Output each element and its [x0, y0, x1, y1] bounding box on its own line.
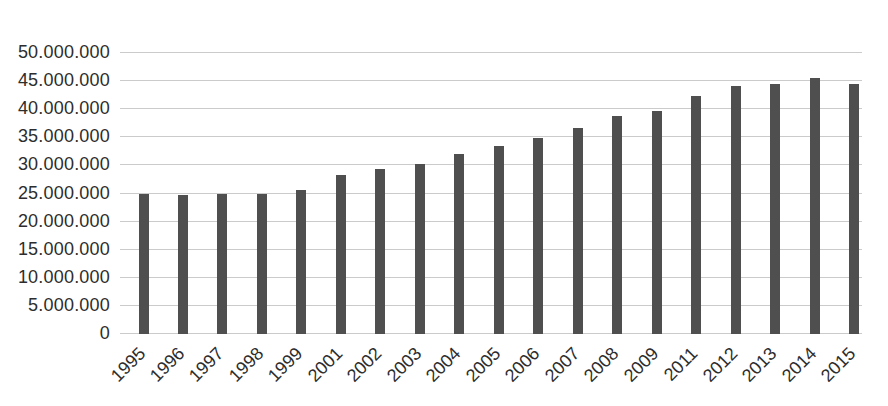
x-axis: 1995199619971998199920012002200320042005…: [0, 0, 888, 406]
bar-chart-figure: 50.000.00045.000.00040.000.00035.000.000…: [0, 0, 888, 406]
